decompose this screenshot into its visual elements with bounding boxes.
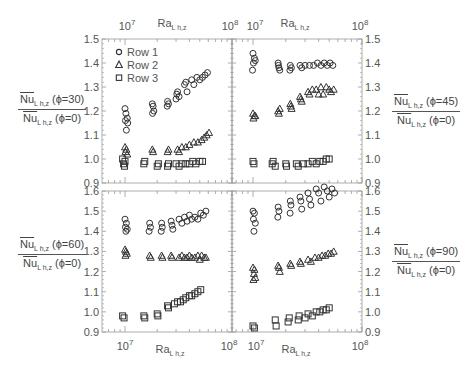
marker-square [120,313,126,319]
legend-circle-icon [116,49,121,54]
marker-triangle [250,276,257,282]
y-tick-label: 1.4 [365,57,380,69]
marker-circle [287,210,293,216]
x-axis-title-bottom-left: RaL h,z [156,343,185,357]
marker-square [183,161,189,167]
marker-circle [308,202,314,208]
x-tick-label-1e8: 108 [222,18,239,32]
marker-circle [307,196,313,202]
marker-square [313,161,319,167]
x-tick-label-1e8: 108 [221,338,238,352]
ylabel-phi60: NuL h,z (ϕ=60) NuL h,z (ϕ=0) [18,238,86,271]
y-tick-label: 1.0 [84,306,99,318]
y-tick-label: 1.0 [365,153,380,165]
y-tick-label: 1.5 [365,33,380,45]
y-tick-label: 1.6 [365,185,380,197]
series-row-3 [250,305,332,331]
marker-circle [170,226,176,232]
marker-square [272,317,278,323]
x-axis-title-top-left: RaL h,z [158,17,187,31]
legend-label: Row 1 [127,46,158,58]
y-tick-label: 1.2 [365,105,380,117]
marker-circle [169,222,175,228]
marker-circle [299,206,305,212]
y-tick-label: 1.3 [365,245,380,257]
y-tick-label: 1.0 [365,306,380,318]
x-tick-label-1e7: 107 [119,18,136,32]
marker-circle [251,210,257,216]
ylabel-phi45: NuL h,z (ϕ=45) NuL h,z (ϕ=0) [392,95,460,128]
marker-circle [288,202,294,208]
marker-circle [123,220,129,226]
y-tick-label: 1.4 [84,225,99,237]
y-tick-label: 0.9 [84,326,99,338]
marker-circle [275,204,281,210]
x-axis-title-top-right: RaL h,z [281,17,310,31]
series-row-2 [250,248,338,282]
y-tick-label: 1.1 [84,129,99,141]
y-tick-label: 1.3 [84,81,99,93]
marker-circle [146,228,152,234]
y-tick-label: 1.1 [365,129,380,141]
marker-circle [147,224,153,230]
marker-circle [123,127,129,133]
y-tick-label: 1.5 [84,33,99,45]
y-tick-label: 1.1 [365,286,380,298]
series-row-3 [120,287,204,321]
x-tick-label-1e7: 107 [117,338,134,352]
x-tick-label-1e8: 108 [352,18,369,32]
series-row-3 [120,156,206,169]
marker-circle [250,208,256,214]
marker-square [313,309,319,315]
y-tick-label: 1.6 [84,185,99,197]
marker-circle [275,214,281,220]
y-tick-label: 1.2 [365,266,380,278]
marker-circle [321,184,327,190]
marker-circle [298,198,304,204]
series-row-2 [122,129,213,157]
marker-circle [123,228,129,234]
legend-square-icon [116,75,121,80]
marker-circle [158,228,164,234]
y-tick-label: 1.5 [365,205,380,217]
y-tick-label: 1.1 [84,286,99,298]
marker-circle [184,89,190,95]
y-tick-label: 0.9 [365,326,380,338]
marker-square [309,313,315,319]
legend: Row 1Row 2Row 3 [116,46,158,84]
marker-circle [250,67,256,73]
marker-circle [159,224,165,230]
legend-label: Row 3 [127,72,158,84]
panel-phi45: 0.91.01.11.21.31.41.5 [232,33,380,189]
legend-label: Row 2 [127,59,158,71]
marker-square [273,323,279,329]
marker-circle [251,228,257,234]
x-tick-label-1e7: 107 [248,338,265,352]
series-row-1 [250,50,336,73]
marker-square [309,158,315,164]
y-tick-label: 1.0 [84,153,99,165]
marker-circle [122,216,128,222]
y-tick-label: 1.4 [365,225,380,237]
marker-circle [276,208,282,214]
series-row-3 [250,156,332,169]
x-axis-title-bottom-right: RaL h,z [282,343,311,357]
chart-canvas: 0.91.01.11.21.31.41.50.91.01.11.21.31.41… [0,0,471,366]
marker-circle [318,198,324,204]
series-row-2 [250,84,338,122]
legend-triangle-icon [116,61,123,68]
x-tick-label-1e7: 107 [247,18,264,32]
marker-square [293,161,299,167]
marker-circle [168,218,174,224]
y-tick-label: 1.4 [84,57,99,69]
ylabel-phi30: NuL h,z (ϕ=30) NuL h,z (ϕ=0) [18,93,86,126]
marker-circle [297,194,303,200]
series-row-2 [122,246,210,262]
panel-phi60: 0.91.01.11.21.31.41.51.6 [84,185,232,338]
x-tick-label-1e8: 108 [352,338,369,352]
marker-square [121,315,127,321]
series-row-1 [250,184,338,234]
y-tick-label: 1.3 [365,81,380,93]
panel-phi90: 0.91.01.11.21.31.41.51.6 [232,184,380,338]
ylabel-phi90: NuL h,z (ϕ=90) NuL h,z (ϕ=0) [392,245,460,278]
